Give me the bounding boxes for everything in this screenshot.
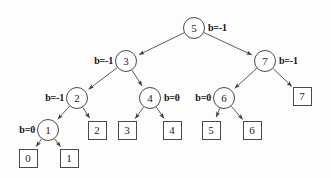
- tree-leaf-6[interactable]: 6: [243, 121, 262, 140]
- avl-tree-diagram: 5b=-13b=-17b=-12b=-14b=06b=01b=072345601: [0, 0, 331, 178]
- tree-leaf-5[interactable]: 5: [202, 121, 221, 140]
- balance-factor-label-1: b=0: [19, 125, 35, 135]
- tree-leaf-label: 5: [208, 125, 214, 136]
- tree-node-6[interactable]: 6: [213, 87, 235, 109]
- tree-node-1[interactable]: 1: [37, 119, 59, 141]
- balance-factor-label-5: b=-1: [208, 23, 227, 33]
- balance-factor-label-7: b=-1: [279, 56, 298, 66]
- tree-node-label: 7: [262, 56, 268, 67]
- tree-edge: [89, 68, 118, 90]
- tree-edge: [55, 139, 61, 147]
- tree-edge: [36, 139, 41, 147]
- tree-leaf-4[interactable]: 4: [163, 121, 182, 140]
- tree-node-5[interactable]: 5: [183, 17, 205, 39]
- balance-factor-label-4: b=0: [164, 93, 180, 103]
- tree-node-label: 2: [74, 93, 80, 104]
- tree-leaf-label: 1: [66, 153, 72, 164]
- tree-leaf-0[interactable]: 0: [19, 149, 38, 168]
- tree-edge: [235, 68, 257, 88]
- tree-edge: [273, 69, 292, 87]
- tree-node-7[interactable]: 7: [254, 50, 276, 72]
- tree-leaf-label: 2: [94, 125, 100, 136]
- tree-edge: [132, 70, 142, 86]
- tree-leaf-label: 0: [25, 153, 31, 164]
- tree-edge: [139, 33, 184, 55]
- tree-edge: [204, 33, 252, 55]
- tree-leaf-label: 7: [299, 91, 305, 102]
- tree-leaf-1[interactable]: 1: [60, 149, 79, 168]
- tree-node-label: 3: [123, 56, 129, 67]
- tree-leaf-label: 3: [124, 125, 130, 136]
- tree-node-label: 5: [191, 23, 197, 34]
- tree-leaf-2[interactable]: 2: [88, 121, 107, 140]
- tree-edge: [135, 107, 143, 119]
- balance-factor-label-6: b=0: [195, 93, 211, 103]
- balance-factor-label-3: b=-1: [94, 56, 113, 66]
- tree-leaf-7[interactable]: 7: [293, 87, 312, 106]
- balance-factor-label-2: b=-1: [45, 93, 64, 103]
- tree-edge: [83, 107, 90, 118]
- tree-node-4[interactable]: 4: [139, 87, 161, 109]
- edge-layer: [0, 0, 331, 178]
- tree-node-label: 4: [147, 93, 153, 104]
- tree-leaf-label: 6: [249, 125, 255, 136]
- tree-edge: [58, 106, 70, 119]
- tree-edge: [156, 107, 164, 118]
- tree-node-label: 6: [221, 93, 227, 104]
- tree-leaf-3[interactable]: 3: [118, 121, 137, 140]
- tree-node-label: 1: [45, 125, 51, 136]
- tree-edge: [216, 108, 220, 117]
- tree-leaf-label: 4: [169, 125, 175, 136]
- tree-node-2[interactable]: 2: [66, 87, 88, 109]
- tree-edge: [231, 106, 243, 119]
- tree-node-3[interactable]: 3: [115, 50, 137, 72]
